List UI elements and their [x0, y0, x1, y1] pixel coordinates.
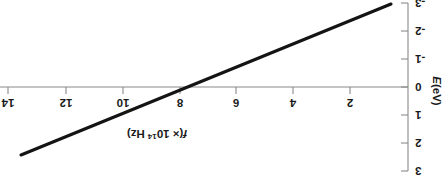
x-tick-label-14: 14 [1, 97, 14, 109]
plot-area: 2 4 6 8 10 12 14 -3 -2 -1 0 1 [0, 0, 447, 178]
x-axis-title-unit: Hz) [127, 128, 148, 140]
x-tick-label-10: 10 [117, 97, 130, 109]
x-axis-title-prefix: (× 10 [157, 128, 184, 140]
x-tick-label-8: 8 [176, 97, 183, 109]
x-tick-label-6: 6 [233, 97, 239, 109]
y-axis-title: E(eV) [431, 76, 443, 106]
chart-screenshot: 2 4 6 8 10 12 14 -3 -2 -1 0 1 [0, 0, 447, 178]
data-line-photoelectric [21, 4, 391, 155]
y-tick-label-0: 0 [415, 81, 421, 93]
y-tick-label-3: 3 [415, 165, 421, 177]
y-tick-label-minus1: -1 [414, 53, 425, 65]
chart-svg: 2 4 6 8 10 12 14 -3 -2 -1 0 1 [0, 0, 447, 178]
x-tick-label-4: 4 [289, 97, 296, 109]
x-axis-title-exponent: 14 [147, 132, 156, 141]
y-axis-title-unit: (eV) [431, 84, 443, 106]
x-tick-label-2: 2 [347, 97, 353, 109]
y-tick-label-2: 2 [415, 137, 421, 149]
x-axis-title: f(× 1014 Hz) [127, 128, 188, 141]
y-tick-label-1: 1 [414, 109, 421, 121]
y-tick-label-minus3: -3 [415, 0, 425, 9]
x-tick-label-12: 12 [60, 97, 73, 109]
rotated-figure-container: 2 4 6 8 10 12 14 -3 -2 -1 0 1 [0, 0, 447, 178]
y-tick-label-minus2: -2 [415, 25, 425, 37]
